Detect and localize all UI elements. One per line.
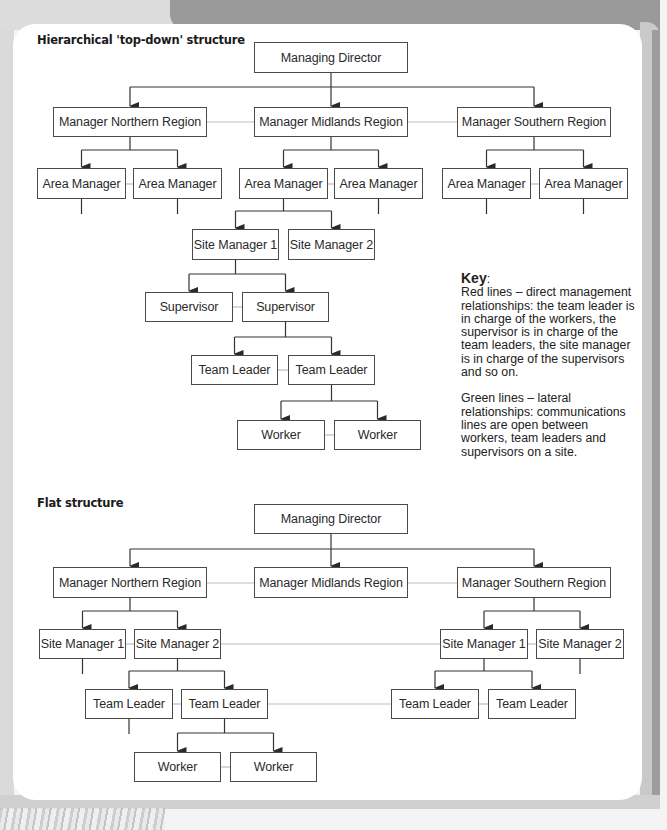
org-node-mid: Manager Midlands Region: [254, 567, 408, 598]
org-node-mid: Manager Midlands Region: [254, 107, 408, 137]
org-node-s-sm1: Site Manager 1: [440, 629, 528, 659]
org-node-tl1: Team Leader: [191, 355, 278, 385]
org-node-n-sm2: Site Manager 2: [134, 629, 221, 659]
org-node-n-tl1: Team Leader: [85, 689, 173, 719]
key-title: Key: [461, 270, 487, 286]
org-node-s-am2: Area Manager: [539, 168, 628, 199]
org-node-md: Managing Director: [254, 42, 408, 73]
org-node-s-sm2: Site Manager 2: [536, 629, 624, 659]
org-node-south: Manager Southern Region: [457, 567, 611, 598]
org-node-w2: Worker: [334, 420, 421, 450]
org-node-n-tl2: Team Leader: [181, 689, 268, 719]
key-legend: Key: Red lines – direct management relat…: [461, 272, 636, 472]
org-node-n-am2: Area Manager: [133, 168, 222, 199]
org-node-md: Managing Director: [254, 504, 408, 534]
org-node-north: Manager Northern Region: [53, 107, 207, 137]
org-node-sm1: Site Manager 1: [192, 229, 279, 260]
flat-structure-title: Flat structure: [37, 496, 123, 510]
org-node-south: Manager Southern Region: [457, 107, 611, 137]
hierarchical-structure-title: Hierarchical 'top-down' structure: [37, 33, 245, 47]
org-node-w1: Worker: [134, 752, 221, 782]
key-title-colon: :: [487, 272, 490, 286]
org-node-s-am1: Area Manager: [442, 168, 531, 199]
org-node-m-am2: Area Manager: [334, 168, 423, 199]
org-node-sup2: Supervisor: [242, 292, 329, 322]
org-node-m-am1: Area Manager: [239, 168, 328, 199]
org-node-north: Manager Northern Region: [53, 567, 207, 598]
org-node-w2: Worker: [230, 752, 317, 782]
org-node-n-sm1: Site Manager 1: [39, 629, 126, 659]
key-red-lines-text: Red lines – direct management relationsh…: [461, 286, 636, 379]
org-node-tl2: Team Leader: [288, 355, 375, 385]
key-green-lines-text: Green lines – lateral relationships: com…: [461, 392, 636, 458]
org-node-s-tl1: Team Leader: [391, 689, 479, 719]
org-node-n-am1: Area Manager: [37, 168, 126, 199]
org-node-sup1: Supervisor: [145, 292, 233, 322]
org-node-sm2: Site Manager 2: [288, 229, 375, 260]
org-node-w1: Worker: [237, 420, 325, 450]
org-node-s-tl2: Team Leader: [488, 689, 576, 719]
